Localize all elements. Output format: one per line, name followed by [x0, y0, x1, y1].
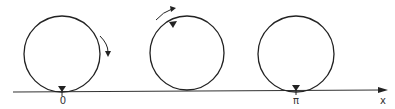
marker-triangle-icon — [169, 21, 177, 28]
x-axis-arrow-icon — [378, 87, 388, 93]
tick-label-pi: π — [293, 96, 299, 106]
circle-start — [24, 16, 111, 96]
circle-end — [258, 16, 334, 95]
rolling-circle-diagram — [0, 0, 395, 109]
counterclockwise-arrow-icon — [156, 9, 172, 20]
tick-label-zero: 0 — [60, 96, 66, 106]
circle-mid — [150, 6, 224, 90]
axis-label-x: x — [380, 96, 386, 106]
clockwise-arrow-icon — [100, 36, 108, 52]
